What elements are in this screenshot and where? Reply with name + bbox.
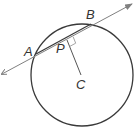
label-a: A [23, 44, 33, 59]
secant-line [2, 4, 132, 74]
label-p: P [56, 41, 65, 56]
right-angle-mark [70, 37, 76, 47]
diagram-svg: A B P C [0, 0, 137, 129]
segment-pc [67, 40, 81, 75]
geometry-diagram: A B P C [0, 0, 137, 129]
circle [31, 24, 133, 126]
label-b: B [86, 7, 95, 22]
label-c: C [76, 77, 86, 92]
